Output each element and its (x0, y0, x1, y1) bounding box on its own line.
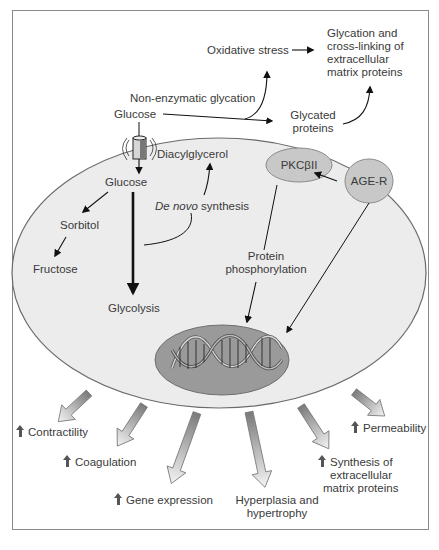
outcome-coagulation-label: Coagulation (75, 456, 136, 468)
arrow-glycated-to-ecm (343, 87, 370, 124)
label-glucose-inside: Glucose (105, 176, 147, 189)
arrow-glucose-to-glycated (163, 114, 272, 121)
outcome-synthesis-line2: extracellular (318, 469, 398, 482)
outcome-arrow-permeability (348, 384, 391, 424)
label-de-novo-rest: synthesis (198, 200, 249, 212)
label-ecm-glycation: Glycation and cross-linking of extracell… (327, 27, 404, 79)
label-age-r: AGE-R (345, 175, 393, 188)
outcome-arrow-contractility (51, 386, 95, 429)
increase-arrow-icon (63, 455, 72, 467)
increase-arrow-icon (114, 493, 123, 505)
increase-arrow-icon (318, 455, 327, 467)
outcome-arrow-synthesis (293, 401, 338, 455)
outcome-arrow-gene-expression (162, 410, 206, 487)
label-glucose-outside: Glucose (114, 108, 156, 121)
label-fructose: Fructose (33, 263, 78, 276)
label-glycated-line2: proteins (286, 122, 340, 135)
nucleus (155, 325, 289, 395)
outcome-gene-expression-label: Gene expression (126, 494, 213, 506)
outcome-permeability-label: Permeability (363, 422, 426, 434)
label-sorbitol: Sorbitol (60, 219, 99, 232)
label-protein-phos-line2: phosphorylation (218, 263, 314, 276)
label-diacylglycerol: Diacylglycerol (157, 148, 228, 161)
label-oxidative-stress: Oxidative stress (207, 44, 289, 57)
outcome-hyperplasia-line1: Hyperplasia and (222, 494, 332, 507)
label-pkc: PKCβII (266, 159, 332, 172)
outcome-coagulation: Coagulation (63, 455, 136, 469)
outcome-synthesis-line3: matrix proteins (318, 482, 398, 495)
label-ecm-line1: Glycation and (327, 27, 404, 40)
outcome-synthesis-ecm: Synthesis of extracellular matrix protei… (318, 455, 398, 495)
outcome-contractility: Contractility (16, 425, 88, 439)
outcome-gene-expression: Gene expression (114, 493, 213, 507)
label-non-enzymatic-glycation: Non-enzymatic glycation (130, 92, 255, 105)
increase-arrow-icon (351, 421, 360, 433)
label-ecm-line3: extracellular (327, 53, 404, 66)
label-glycated-proteins: Glycated proteins (286, 109, 340, 135)
outcome-permeability: Permeability (351, 421, 426, 435)
label-de-novo-synthesis: De novo synthesis (155, 200, 249, 213)
outcome-hyperplasia-hypertrophy: Hyperplasia and hypertrophy (222, 494, 332, 520)
outcome-hyperplasia-line2: hypertrophy (222, 507, 332, 520)
increase-arrow-icon (16, 425, 25, 437)
outcome-contractility-label: Contractility (28, 426, 88, 438)
label-protein-phos-line1: Protein (218, 250, 314, 263)
outcome-synthesis-line1: Synthesis of (330, 456, 393, 468)
label-ecm-line4: matrix proteins (327, 66, 404, 79)
outcome-arrow-coagulation (109, 400, 152, 452)
label-de-novo-italic: De novo (155, 200, 198, 212)
label-glycolysis: Glycolysis (108, 302, 160, 315)
label-glycated-line1: Glycated (286, 109, 340, 122)
label-protein-phosphorylation: Protein phosphorylation (218, 250, 314, 276)
outcome-arrow-hyperplasia (239, 410, 275, 489)
label-ecm-line2: cross-linking of (327, 40, 404, 53)
